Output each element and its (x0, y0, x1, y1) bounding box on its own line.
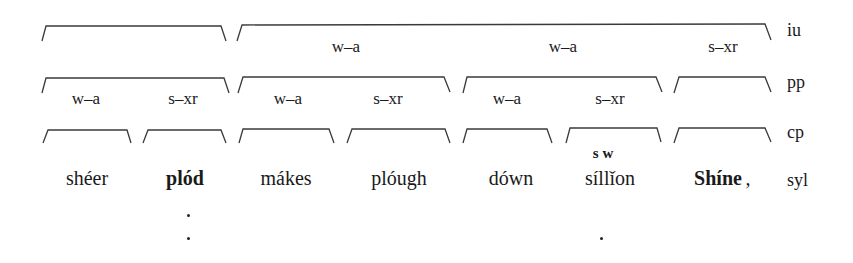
iu-label-1: w–a (332, 38, 360, 55)
pp-label-4: s–xr (373, 90, 402, 107)
cp-bracket-4 (347, 129, 450, 143)
cp-bracket-5 (463, 129, 552, 143)
tier-label-iu: iu (787, 21, 801, 39)
cp-bracket-3 (239, 129, 334, 143)
iu-bracket-1 (42, 26, 226, 41)
pp-bracket-4 (674, 77, 771, 93)
word-shine: Shíne (694, 168, 742, 188)
pp-bracket-1 (42, 78, 229, 93)
iu-label-2: w–a (549, 38, 577, 55)
cp-bracket-7 (674, 128, 771, 143)
pp-label-3: w–a (274, 90, 302, 107)
cp-bracket-2 (143, 130, 226, 143)
word-plod: plód (166, 168, 204, 188)
word-makes: mákes (260, 168, 311, 188)
pp-label-6: s–xr (595, 90, 624, 107)
dot-plod-1 (187, 214, 190, 217)
prosodic-hierarchy-diagram: iu pp cp syl w–a w–a s–xr w–a s–xr w–a s… (0, 0, 853, 263)
cp-bracket-6 (566, 128, 661, 143)
comma: , (746, 168, 751, 188)
word-sheer: shéer (66, 168, 108, 188)
word-down: dówn (489, 168, 533, 188)
pp-label-2: s–xr (168, 90, 197, 107)
pp-label-5: w–a (493, 90, 521, 107)
pp-bracket-2 (238, 77, 450, 93)
tier-label-cp: cp (787, 123, 804, 141)
tier-label-pp: pp (787, 73, 805, 91)
iu-bracket-2 (237, 24, 771, 41)
word-sillion: síllǐon (585, 168, 635, 188)
iu-label-3: s–xr (708, 38, 737, 55)
dot-plod-2 (187, 237, 190, 240)
tier-label-syl: syl (787, 171, 808, 189)
dot-sillion (600, 237, 603, 240)
word-plough: plóugh (371, 168, 427, 188)
sillion-stress-marks: s w (593, 146, 613, 161)
cp-bracket-1 (43, 130, 131, 143)
pp-label-1: w–a (72, 90, 100, 107)
